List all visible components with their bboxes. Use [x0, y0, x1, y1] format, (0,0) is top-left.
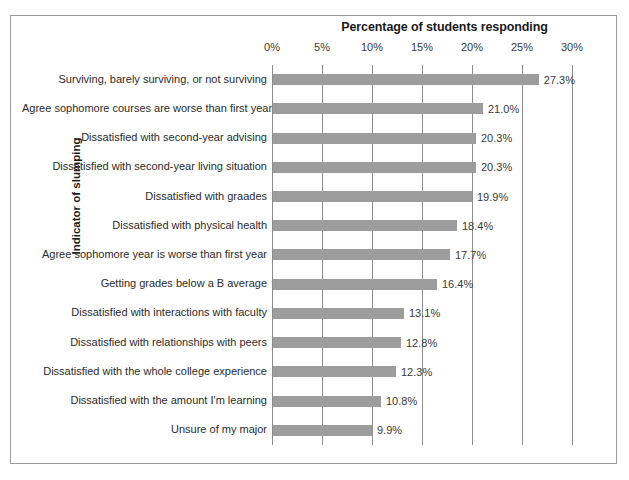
- bar-value-label: 20.3%: [481, 132, 512, 144]
- bar[interactable]: [273, 366, 396, 377]
- bar-row[interactable]: 21.0%: [272, 94, 575, 123]
- bar-row[interactable]: 12.3%: [272, 357, 575, 386]
- category-label: Dissatisfied with second-year living sit…: [22, 160, 267, 173]
- bar-row[interactable]: 9.9%: [272, 416, 575, 445]
- bar-value-label: 12.8%: [406, 337, 437, 349]
- bar[interactable]: [273, 337, 401, 348]
- bar-value-label: 13.1%: [409, 307, 440, 319]
- bar-value-label: 21.0%: [488, 103, 519, 115]
- category-label: Dissatisfied with the whole college expe…: [22, 365, 267, 378]
- bar-value-label: 16.4%: [442, 278, 473, 290]
- x-tick-label: 10%: [352, 41, 392, 53]
- bar[interactable]: [273, 103, 483, 114]
- category-label: Agree sophomore year is worse than first…: [22, 248, 267, 261]
- bar-row[interactable]: 20.3%: [272, 123, 575, 152]
- bar-row[interactable]: 10.8%: [272, 387, 575, 416]
- category-label-column: Surviving, barely surviving, or not surv…: [22, 65, 267, 445]
- bar-value-label: 9.9%: [377, 424, 402, 436]
- bar-value-label: 19.9%: [477, 191, 508, 203]
- category-label: Dissatisfied with physical health: [22, 219, 267, 232]
- x-tick-label: 30%: [552, 41, 592, 53]
- category-label: Unsure of my major: [22, 423, 267, 436]
- category-label: Dissatisfied with relationships with pee…: [22, 336, 267, 349]
- bar-row[interactable]: 27.3%: [272, 65, 575, 94]
- bar[interactable]: [273, 249, 450, 260]
- bar-row[interactable]: 19.9%: [272, 182, 575, 211]
- category-label: Dissatisfied with second-year advising: [22, 131, 267, 144]
- cut-off-caption: [0, 470, 629, 480]
- x-tick-label: 0%: [252, 41, 292, 53]
- bar-row[interactable]: 12.8%: [272, 328, 575, 357]
- plot-area: 0%5%10%15%20%25%30%27.3%21.0%20.3%20.3%1…: [272, 65, 575, 445]
- bar[interactable]: [273, 279, 437, 290]
- bar[interactable]: [273, 162, 476, 173]
- x-tick-label: 15%: [402, 41, 442, 53]
- bar-value-label: 17.7%: [455, 249, 486, 261]
- x-tick-label: 20%: [452, 41, 492, 53]
- bar[interactable]: [273, 220, 457, 231]
- category-label: Dissatisfied with the amount I'm learnin…: [22, 394, 267, 407]
- bar[interactable]: [273, 74, 539, 85]
- category-label: Surviving, barely surviving, or not surv…: [22, 73, 267, 86]
- chart-title: Percentage of students responding: [272, 20, 617, 34]
- bar-row[interactable]: 16.4%: [272, 270, 575, 299]
- bar[interactable]: [273, 425, 372, 436]
- bar-row[interactable]: 17.7%: [272, 240, 575, 269]
- category-label: Dissatisfied with graades: [22, 190, 267, 203]
- bar[interactable]: [273, 308, 404, 319]
- category-label: Agree sophomore courses are worse than f…: [22, 102, 267, 115]
- bar-value-label: 18.4%: [462, 220, 493, 232]
- x-tick-label: 25%: [502, 41, 542, 53]
- bar-row[interactable]: 20.3%: [272, 153, 575, 182]
- x-tick-label: 5%: [302, 41, 342, 53]
- category-label: Getting grades below a B average: [22, 277, 267, 290]
- bar[interactable]: [273, 133, 476, 144]
- bar-value-label: 20.3%: [481, 161, 512, 173]
- bar-row[interactable]: 13.1%: [272, 299, 575, 328]
- bar-value-label: 10.8%: [386, 395, 417, 407]
- bar[interactable]: [273, 191, 472, 202]
- bar[interactable]: [273, 396, 381, 407]
- bar-row[interactable]: 18.4%: [272, 211, 575, 240]
- category-label: Dissatisfied with interactions with facu…: [22, 306, 267, 319]
- bar-value-label: 12.3%: [401, 366, 432, 378]
- bar-value-label: 27.3%: [544, 74, 575, 86]
